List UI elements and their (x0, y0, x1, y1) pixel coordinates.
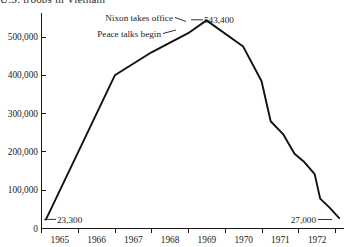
y-tick-label-3: 300,000 (8, 109, 39, 119)
y-tick-labels: 0 100,000 200,000 300,000 400,000 500,00… (8, 32, 39, 234)
x-tick-label-1969: 1969 (198, 235, 217, 245)
data-series-line (46, 20, 339, 219)
y-tick-marks (42, 37, 47, 229)
annotation-labels: 23,300 543,400 Nixon takes office Peace … (57, 13, 316, 225)
x-tick-labels: 1965 1966 1967 1968 1969 1970 1971 1972 (51, 235, 327, 245)
chart-container: U.S. troops in Vietnam 0 100,000 200,000… (0, 0, 350, 247)
annotation-leaders (44, 18, 332, 220)
y-tick-label-0: 0 (33, 224, 38, 234)
x-tick-marks (42, 229, 336, 234)
y-tick-label-1: 100,000 (8, 185, 39, 195)
line-chart-plot: 0 100,000 200,000 300,000 400,000 500,00… (0, 0, 350, 247)
annotation-start-value: 23,300 (57, 215, 83, 225)
x-tick-label-1968: 1968 (161, 235, 180, 245)
x-tick-label-1966: 1966 (87, 235, 106, 245)
annotation-peace-talks-begin: Peace talks begin (97, 29, 161, 39)
y-tick-label-5: 500,000 (8, 32, 39, 42)
leader-nixon (175, 18, 186, 22)
y-tick-label-2: 200,000 (8, 147, 39, 157)
x-tick-label-1971: 1971 (271, 235, 290, 245)
annotation-peak-value: 543,400 (204, 15, 234, 25)
leader-peace-talks (163, 30, 176, 34)
x-tick-label-1965: 1965 (51, 235, 70, 245)
annotation-nixon-takes-office: Nixon takes office (105, 13, 173, 23)
x-tick-label-1970: 1970 (234, 235, 253, 245)
x-tick-label-1972: 1972 (308, 235, 327, 245)
y-tick-label-4: 400,000 (8, 70, 39, 80)
x-tick-label-1967: 1967 (124, 235, 143, 245)
annotation-end-value: 27,000 (291, 215, 317, 225)
